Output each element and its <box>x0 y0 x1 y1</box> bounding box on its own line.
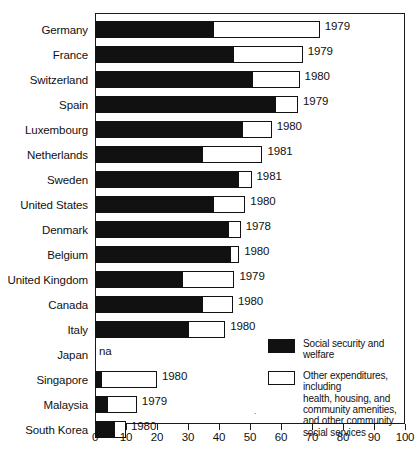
bar-segment-social-security <box>95 96 275 113</box>
stacked-bar <box>95 296 233 313</box>
bar-segment-social-security <box>95 246 230 263</box>
chart-container: Germany1979France1979Switzerland1980Spai… <box>0 0 419 456</box>
category-label: Netherlands <box>0 142 88 167</box>
bar-segment-social-security <box>95 46 233 63</box>
year-annotation: 1980 <box>162 370 187 382</box>
category-label: Germany <box>0 17 88 42</box>
table-row: United Kingdom1979 <box>0 267 419 292</box>
year-annotation: 1978 <box>246 220 271 232</box>
chart-legend: Social security and welfareOther expendi… <box>268 338 416 447</box>
table-row: Canada1980 <box>0 292 419 317</box>
year-annotation: 1980 <box>250 195 275 207</box>
stacked-bar <box>95 271 235 288</box>
legend-label: Social security and welfare <box>303 338 416 361</box>
stacked-bar <box>95 46 303 63</box>
bar-segment-social-security <box>95 21 213 38</box>
bar-segment-other-expenditures <box>252 71 300 88</box>
category-label: Singapore <box>0 367 88 392</box>
bar-segment-social-security <box>95 321 188 338</box>
year-annotation: 1979 <box>240 270 265 282</box>
bar-segment-other-expenditures <box>275 96 298 113</box>
year-annotation: 1980 <box>230 320 255 332</box>
axis-tick <box>95 424 96 430</box>
bar-segment-social-security <box>95 171 238 188</box>
year-annotation: 1979 <box>142 395 167 407</box>
category-label: Luxembourg <box>0 117 88 142</box>
year-annotation: 1979 <box>303 95 328 107</box>
stacked-bar <box>95 146 262 163</box>
stacked-bar <box>95 171 252 188</box>
category-label: Italy <box>0 317 88 342</box>
bar-segment-other-expenditures <box>188 321 225 338</box>
axis-tick <box>219 424 220 430</box>
bar-segment-social-security <box>95 371 101 388</box>
axis-tick <box>188 424 189 430</box>
na-annotation: na <box>99 345 112 357</box>
stacked-bar <box>95 96 298 113</box>
table-row: Switzerland1980 <box>0 67 419 92</box>
bar-segment-other-expenditures <box>202 146 262 163</box>
stacked-bar <box>95 246 239 263</box>
legend-swatch-black <box>268 339 295 353</box>
table-row: Denmark1978 <box>0 217 419 242</box>
table-row: Netherlands1981 <box>0 142 419 167</box>
category-label: Japan <box>0 342 88 367</box>
category-label: Belgium <box>0 242 88 267</box>
category-label: Sweden <box>0 167 88 192</box>
year-annotation: 1980 <box>305 70 330 82</box>
category-label: France <box>0 42 88 67</box>
stacked-bar <box>95 21 320 38</box>
year-annotation: 1979 <box>325 20 350 32</box>
table-row: Sweden1981 <box>0 167 419 192</box>
category-label: Canada <box>0 292 88 317</box>
bar-segment-other-expenditures <box>230 246 239 263</box>
table-row: Belgium1980 <box>0 242 419 267</box>
table-row: United States1980 <box>0 192 419 217</box>
table-row: France1979 <box>0 42 419 67</box>
category-label: Denmark <box>0 217 88 242</box>
table-row: Germany1979 <box>0 17 419 42</box>
stacked-bar <box>95 196 245 213</box>
axis-tick <box>250 424 251 430</box>
bar-segment-social-security <box>95 196 213 213</box>
stacked-bar <box>95 371 157 388</box>
category-label: Spain <box>0 92 88 117</box>
bar-segment-other-expenditures <box>101 371 157 388</box>
bar-segment-other-expenditures <box>202 296 233 313</box>
legend-swatch-white <box>268 371 295 385</box>
year-annotation: 1980 <box>238 295 263 307</box>
stacked-bar <box>95 321 225 338</box>
category-label: United Kingdom <box>0 267 88 292</box>
year-annotation: 1980 <box>244 245 269 257</box>
bar-segment-other-expenditures <box>228 221 240 238</box>
table-row: Luxembourg1980 <box>0 117 419 142</box>
category-label: Malaysia <box>0 392 88 417</box>
legend-label: Other expenditures, including health, ho… <box>303 370 416 438</box>
axis-tick <box>157 424 158 430</box>
bar-segment-social-security <box>95 71 252 88</box>
year-annotation: 1981 <box>257 170 282 182</box>
bar-segment-other-expenditures <box>213 21 320 38</box>
bar-segment-other-expenditures <box>242 121 271 138</box>
legend-item: Other expenditures, including health, ho… <box>268 370 416 438</box>
year-annotation: 1981 <box>267 145 292 157</box>
year-annotation: 1980 <box>277 120 302 132</box>
bar-segment-other-expenditures <box>182 271 235 288</box>
bar-segment-other-expenditures <box>238 171 252 188</box>
category-label: United States <box>0 192 88 217</box>
stacked-bar <box>95 121 272 138</box>
bar-segment-social-security <box>95 146 202 163</box>
category-label: Switzerland <box>0 67 88 92</box>
bar-segment-social-security <box>95 271 182 288</box>
bar-segment-social-security <box>95 296 202 313</box>
bar-segment-other-expenditures <box>107 396 136 413</box>
table-row: Spain1979 <box>0 92 419 117</box>
bar-segment-other-expenditures <box>213 196 246 213</box>
bar-segment-other-expenditures <box>233 46 303 63</box>
stray-mark: . <box>254 406 257 416</box>
stacked-bar <box>95 71 300 88</box>
year-annotation: 1979 <box>308 45 333 57</box>
cropped-source-caption <box>0 449 419 456</box>
bar-segment-social-security <box>95 396 107 413</box>
axis-tick <box>126 424 127 430</box>
